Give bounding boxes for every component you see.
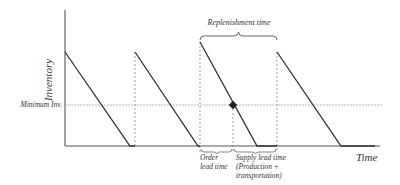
- inventory-sawtooth: [200, 42, 277, 146]
- inventory-diagram: Inventory Time Minimum Inv. Replenishmen…: [0, 0, 400, 185]
- supply-lead-time-label-line2: (Production +: [236, 162, 279, 171]
- minimum-inventory-label: Minimum Inv.: [19, 100, 62, 109]
- supply-lead-time-label-line3: transportation): [236, 171, 282, 180]
- x-axis-label: Time: [356, 151, 378, 163]
- y-axis-label: Inventory: [42, 59, 54, 102]
- inventory-sawtooth: [277, 52, 375, 146]
- order-lead-time-label-line2: lead time: [200, 162, 228, 171]
- supply-lead-time-label-line1: Supply lead time: [236, 153, 287, 162]
- inventory-sawtooth: [65, 52, 135, 146]
- inventory-sawtooth: [135, 52, 200, 146]
- order-lead-time-label-line1: Order: [200, 153, 218, 162]
- replenishment-brace: [200, 32, 277, 40]
- replenishment-time-label: Replenishment time: [207, 18, 271, 27]
